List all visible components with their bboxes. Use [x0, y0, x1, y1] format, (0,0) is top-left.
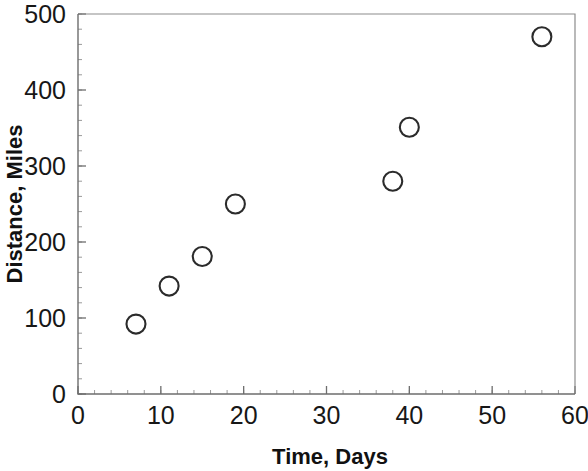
scatter-chart: 0100200300400500 0102030405060 Time, Day… — [0, 0, 588, 471]
y-tick-label: 300 — [24, 152, 66, 180]
data-point-marker — [400, 118, 419, 137]
y-tick-label: 100 — [24, 304, 66, 332]
x-axis-title: Time, Days — [272, 444, 388, 469]
plot-frame-top-right — [78, 14, 575, 394]
x-tick-label: 20 — [230, 401, 258, 429]
x-tick-label: 40 — [395, 401, 423, 429]
data-point-marker — [226, 195, 245, 214]
data-point-marker — [126, 315, 145, 334]
x-tick-label: 10 — [147, 401, 175, 429]
major-tick-group — [78, 14, 575, 394]
y-tick-label: 200 — [24, 228, 66, 256]
y-tick-label: 400 — [24, 76, 66, 104]
plot-axes-left-bottom — [78, 14, 575, 394]
data-point-marker — [383, 172, 402, 191]
plot-canvas: 0100200300400500 0102030405060 Time, Day… — [0, 0, 588, 471]
data-point-group — [126, 27, 551, 333]
x-tick-label: 50 — [478, 401, 506, 429]
data-point-marker — [532, 27, 551, 46]
x-axis-tick-labels: 0102030405060 — [71, 401, 588, 429]
y-tick-label: 500 — [24, 0, 66, 28]
y-tick-label: 0 — [52, 380, 66, 408]
x-tick-label: 0 — [71, 401, 85, 429]
x-tick-label: 30 — [313, 401, 341, 429]
data-point-marker — [193, 247, 212, 266]
y-axis-title: Distance, Miles — [2, 125, 27, 284]
y-axis-tick-labels: 0100200300400500 — [24, 0, 66, 408]
data-point-marker — [160, 277, 179, 296]
x-tick-label: 60 — [561, 401, 588, 429]
minor-tick-group — [78, 14, 575, 394]
